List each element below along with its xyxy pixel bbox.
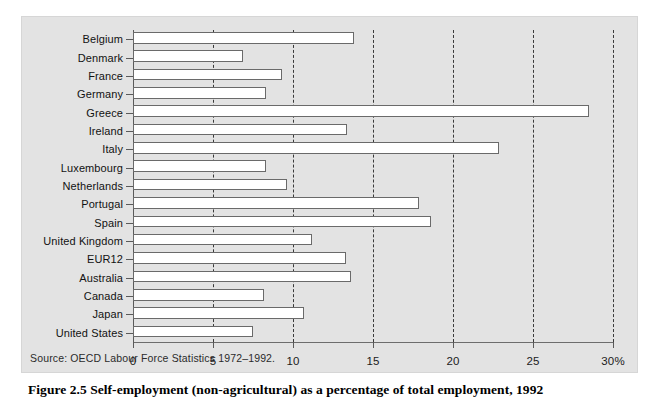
x-tick-label-20: 20 — [446, 355, 459, 367]
x-tick-15 — [373, 342, 374, 348]
category-label: France — [88, 70, 123, 82]
x-tick-label-15: 15 — [366, 355, 379, 367]
bar — [133, 197, 419, 209]
x-tick-label-25: 25 — [526, 355, 539, 367]
x-tick-30 — [613, 342, 614, 348]
bar — [133, 234, 312, 246]
bar — [133, 69, 282, 81]
bar — [133, 87, 266, 99]
bar — [133, 252, 346, 264]
category-label: Luxembourg — [61, 162, 123, 174]
bar-row: Luxembourg — [133, 158, 613, 176]
category-label: United Kingdom — [43, 235, 123, 247]
bar — [133, 105, 589, 117]
bar — [133, 179, 287, 191]
bar-row: Denmark — [133, 48, 613, 66]
x-tick-10 — [293, 342, 294, 348]
bar-row: EUR12 — [133, 250, 613, 268]
x-tick-0 — [133, 342, 134, 348]
category-tick — [126, 94, 133, 95]
bar-row: Australia — [133, 269, 613, 287]
x-tick-25 — [533, 342, 534, 348]
bar — [133, 326, 253, 338]
bar-row: Japan — [133, 305, 613, 323]
category-label: Denmark — [78, 52, 123, 64]
category-label: Italy — [102, 143, 123, 155]
bar-row: Belgium — [133, 30, 613, 48]
category-label: United States — [56, 327, 123, 339]
bar — [133, 271, 351, 283]
category-tick — [126, 223, 133, 224]
category-tick — [126, 241, 133, 242]
category-tick — [126, 168, 133, 169]
bar-row: Netherlands — [133, 177, 613, 195]
bar — [133, 160, 266, 172]
category-label: Greece — [86, 107, 123, 119]
category-label: Canada — [84, 290, 123, 302]
chart-plate: 051015202530% BelgiumDenmarkFranceGerman… — [22, 17, 637, 372]
figure-caption: Figure 2.5 Self-employment (non-agricult… — [28, 382, 543, 398]
category-tick — [126, 259, 133, 260]
bar — [133, 289, 264, 301]
category-tick — [126, 186, 133, 187]
bar-row: Canada — [133, 287, 613, 305]
category-label: Belgium — [83, 33, 123, 45]
bar — [133, 50, 243, 62]
category-label: Spain — [94, 217, 123, 229]
category-label: Australia — [79, 272, 123, 284]
bar-row: Portugal — [133, 195, 613, 213]
bar — [133, 307, 304, 319]
category-label: Netherlands — [63, 180, 123, 192]
category-tick — [126, 39, 133, 40]
category-label: Ireland — [89, 125, 123, 137]
bar-row: Ireland — [133, 122, 613, 140]
category-tick — [126, 131, 133, 132]
bar-row: Spain — [133, 214, 613, 232]
gridline-30 — [613, 30, 614, 342]
x-tick-label-30: 30% — [601, 355, 625, 367]
source-note: Source: OECD Labour Force Statistics 197… — [30, 352, 275, 364]
bar — [133, 142, 499, 154]
category-label: Germany — [77, 88, 123, 100]
figure-container: 051015202530% BelgiumDenmarkFranceGerman… — [0, 0, 659, 416]
plot-area: 051015202530% BelgiumDenmarkFranceGerman… — [133, 30, 613, 342]
category-tick — [126, 314, 133, 315]
category-label: Portugal — [81, 198, 123, 210]
category-tick — [126, 58, 133, 59]
category-tick — [126, 149, 133, 150]
bar — [133, 124, 347, 136]
category-tick — [126, 278, 133, 279]
category-tick — [126, 113, 133, 114]
x-tick-5 — [213, 342, 214, 348]
category-tick — [126, 333, 133, 334]
x-tick-label-10: 10 — [286, 355, 299, 367]
category-label: EUR12 — [87, 253, 123, 265]
bar-row: United States — [133, 324, 613, 342]
bar-row: Greece — [133, 103, 613, 121]
category-tick — [126, 76, 133, 77]
bar-row: France — [133, 67, 613, 85]
x-tick-20 — [453, 342, 454, 348]
bar — [133, 32, 354, 44]
bar-row: Germany — [133, 85, 613, 103]
bar-row: Italy — [133, 140, 613, 158]
category-tick — [126, 296, 133, 297]
bar-row: United Kingdom — [133, 232, 613, 250]
category-tick — [126, 204, 133, 205]
category-label: Japan — [93, 308, 123, 320]
bar — [133, 216, 431, 228]
